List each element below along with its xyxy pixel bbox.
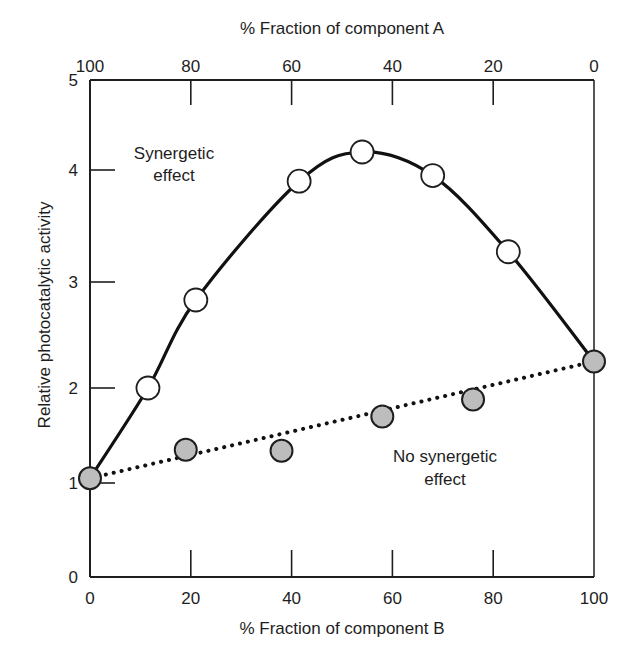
- filled-circle-marker: [371, 406, 393, 428]
- filled-circle-marker: [583, 351, 605, 373]
- open-circle-marker: [184, 289, 207, 312]
- photocatalytic-activity-chart: 012345020406080100100806040200 % Fractio…: [0, 0, 639, 664]
- y-tick-label: 3: [69, 273, 78, 292]
- open-circle-marker: [421, 164, 444, 187]
- y-tick-label: 1: [69, 474, 78, 493]
- top-axis-title: % Fraction of component A: [240, 19, 445, 38]
- open-circle-marker: [351, 141, 374, 164]
- y-axis-title: Relative photocatalytic activity: [35, 201, 54, 428]
- no-synergetic-dotted-line: [90, 362, 594, 479]
- x-tick-label: 60: [383, 589, 402, 608]
- x-tick-label: 100: [580, 589, 608, 608]
- open-circle-marker: [288, 170, 311, 193]
- x-tick-label: 0: [85, 589, 94, 608]
- filled-circle-marker: [462, 388, 484, 410]
- no-synergetic-label-line2: effect: [424, 470, 466, 489]
- x-tick-label: 40: [282, 589, 301, 608]
- no-synergetic-label-line1: No synergetic: [393, 447, 497, 466]
- x2-tick-label: 60: [282, 57, 301, 76]
- synergetic-label-line2: effect: [153, 166, 195, 185]
- x2-tick-label: 100: [76, 57, 104, 76]
- synergetic-curve: [90, 152, 594, 478]
- x-tick-label: 20: [181, 589, 200, 608]
- synergetic-label-line1: Synergetic: [134, 144, 215, 163]
- y-tick-label: 4: [69, 161, 78, 180]
- y-tick-label: 0: [69, 568, 78, 587]
- tick-labels: 012345020406080100100806040200: [69, 57, 609, 608]
- x2-tick-label: 20: [484, 57, 503, 76]
- open-circle-marker: [136, 377, 159, 400]
- open-circle-marker: [497, 240, 520, 263]
- x2-tick-label: 0: [589, 57, 598, 76]
- filled-circle-marker: [271, 440, 293, 462]
- y-tick-label: 2: [69, 379, 78, 398]
- x-tick-label: 80: [484, 589, 503, 608]
- x2-tick-label: 80: [181, 57, 200, 76]
- bottom-axis-title: % Fraction of component B: [239, 619, 444, 638]
- x2-tick-label: 40: [383, 57, 402, 76]
- filled-circle-marker: [79, 467, 101, 489]
- filled-circle-marker: [175, 439, 197, 461]
